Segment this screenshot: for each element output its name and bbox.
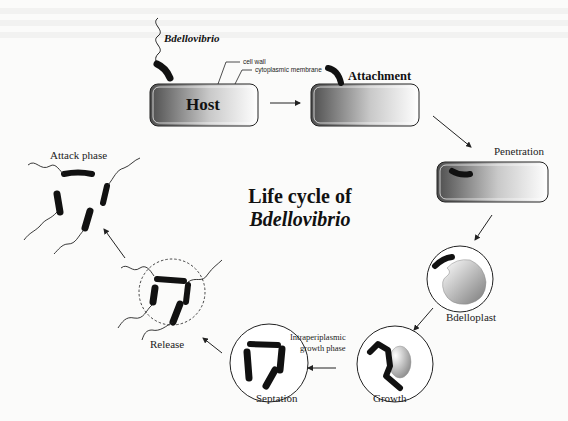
growth-icon xyxy=(357,326,433,402)
arrow-bdelloplast-to-growth xyxy=(414,308,433,330)
cytoplasmic-membrane-label: cytoplasmic membrane xyxy=(255,67,322,74)
attack-phase-label: Attack phase xyxy=(50,150,107,161)
bdellovibrio-label: Bdellovibrio xyxy=(164,33,220,44)
bdellovibrio-life-cycle-diagram: Bdellovibrio cell wall cytoplasmic membr… xyxy=(0,0,568,421)
intraperiplasmic-label: Intraperiplasmic growth phase xyxy=(290,332,346,353)
host-label: Host xyxy=(186,96,220,113)
diagram-title: Life cycle of Bdellovibrio xyxy=(240,186,360,229)
attachment-label: Attachment xyxy=(348,70,411,83)
membrane-leader-line xyxy=(235,70,252,84)
arrow-penetration-to-bdelloplast xyxy=(475,215,492,240)
intraperiplasmic-line1: Intraperiplasmic xyxy=(290,332,346,342)
title-line1: Life cycle of xyxy=(240,186,360,206)
penetration-cell-icon xyxy=(437,162,548,202)
title-line2: Bdellovibrio xyxy=(240,209,360,229)
release-icon xyxy=(118,259,222,340)
penetration-label: Penetration xyxy=(494,146,544,157)
arrow-release-to-attack xyxy=(104,229,125,258)
bdellovibrio-free-cell-icon xyxy=(156,18,170,78)
arrow-septation-to-release xyxy=(203,338,222,353)
arrow-attachment-to-penetration xyxy=(433,116,471,147)
bdelloplast-icon xyxy=(427,246,493,312)
cell-wall-label: cell wall xyxy=(243,59,266,66)
attack-phase-icon xyxy=(24,158,140,254)
growth-label: Growth xyxy=(373,393,407,404)
release-label: Release xyxy=(150,339,184,350)
intraperiplasmic-line2: growth phase xyxy=(290,343,346,353)
septation-label: Septation xyxy=(256,393,298,404)
bdelloplast-label: Bdelloplast xyxy=(446,312,496,323)
